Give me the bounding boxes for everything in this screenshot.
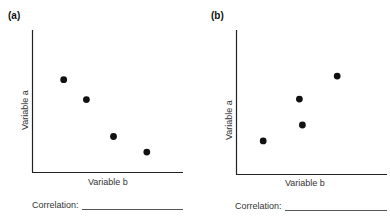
correlation-label-a: Correlation: [32, 200, 79, 210]
x-axis-label-a: Variable b [88, 177, 128, 187]
data-points-a [60, 76, 150, 155]
scatter-panel-a: (a) Variable a Variable b Correlation: [0, 0, 195, 219]
data-point [299, 122, 306, 129]
data-point [296, 96, 303, 103]
data-point [143, 149, 150, 156]
data-point [83, 96, 90, 103]
correlation-answer-blank-a[interactable] [82, 209, 183, 210]
correlation-label-b: Correlation: [235, 201, 282, 211]
data-point [110, 133, 117, 140]
x-axis-label-b: Variable b [285, 178, 325, 188]
data-point [260, 138, 267, 145]
data-point [60, 76, 67, 83]
data-points-b [260, 73, 341, 145]
y-axis-label-b: Variable a [224, 100, 234, 140]
data-point [334, 73, 341, 80]
scatter-panel-b: (b) Variable a Variable b Correlation: [195, 0, 390, 219]
correlation-answer-blank-b[interactable] [285, 210, 387, 211]
y-axis-label-a: Variable a [20, 90, 30, 130]
